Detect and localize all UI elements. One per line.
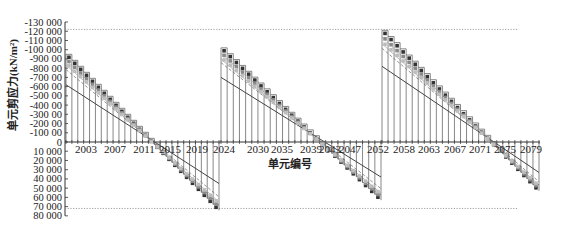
data-marker — [214, 199, 218, 203]
x-tick-label: 2030 — [247, 143, 270, 155]
data-marker — [228, 59, 232, 63]
x-tick-label: 2071 — [469, 143, 491, 155]
data-marker — [480, 131, 484, 135]
data-marker — [364, 179, 368, 183]
data-marker — [407, 61, 411, 65]
y-tick-label: 80 000 — [33, 210, 62, 221]
x-tick-label: 2011 — [133, 143, 155, 155]
data-marker — [102, 96, 106, 100]
data-marker — [108, 102, 112, 106]
data-marker — [228, 63, 232, 67]
data-marker — [407, 56, 411, 60]
data-marker — [528, 176, 532, 180]
data-marker — [173, 161, 177, 165]
data-marker — [339, 158, 343, 162]
data-marker — [278, 106, 282, 110]
data-marker — [401, 50, 405, 54]
segment-1 — [66, 54, 219, 210]
data-marker — [241, 67, 245, 71]
data-marker — [97, 91, 101, 95]
data-marker — [395, 54, 399, 58]
x-tick-label: 2058 — [393, 143, 416, 155]
data-marker — [383, 32, 387, 36]
data-marker — [91, 86, 95, 90]
data-marker — [370, 185, 374, 189]
data-marker — [241, 70, 245, 74]
x-tick-label: 2007 — [104, 143, 127, 155]
x-tick-label: 2079 — [520, 143, 543, 155]
segment-2 — [221, 48, 381, 200]
data-marker — [222, 54, 226, 58]
data-marker — [73, 69, 77, 73]
data-marker — [114, 107, 118, 111]
data-marker — [235, 61, 239, 65]
data-marker — [419, 72, 423, 76]
data-marker — [486, 137, 490, 141]
shear-stress-chart: -130 000-120 000-110 000-100 000-900 00-… — [0, 0, 561, 236]
data-marker — [462, 115, 466, 119]
data-marker — [132, 123, 136, 127]
data-marker — [516, 165, 520, 169]
data-marker — [265, 95, 269, 99]
data-marker — [296, 121, 300, 125]
x-tick-label: 2075 — [494, 143, 517, 155]
data-marker — [432, 87, 436, 91]
data-marker — [456, 109, 460, 113]
data-marker — [376, 190, 380, 194]
data-marker — [419, 76, 423, 80]
data-marker — [120, 113, 124, 117]
segment-3 — [382, 30, 539, 191]
data-marker — [425, 81, 429, 85]
data-marker — [85, 74, 89, 78]
data-marker — [67, 60, 71, 64]
x-tick-label: 2047 — [339, 143, 362, 155]
data-marker — [79, 68, 83, 72]
data-marker — [510, 159, 514, 163]
data-marker — [395, 49, 399, 53]
data-marker — [358, 174, 362, 178]
data-marker — [247, 72, 251, 76]
data-marker — [197, 183, 201, 187]
data-marker — [79, 75, 83, 79]
data-marker — [214, 202, 218, 206]
data-marker — [167, 156, 171, 160]
x-tick-label: 2063 — [418, 143, 441, 155]
data-marker — [259, 90, 263, 94]
data-marker — [73, 65, 77, 69]
data-marker — [383, 42, 387, 46]
data-marker — [308, 132, 312, 136]
data-marker — [534, 181, 538, 185]
x-tick-label: 2003 — [75, 143, 98, 155]
data-marker — [315, 137, 319, 141]
data-marker — [401, 55, 405, 59]
data-marker — [202, 188, 206, 192]
x-tick-label: 2035 — [271, 143, 294, 155]
data-marker — [228, 55, 232, 59]
data-marker — [241, 74, 245, 78]
data-marker — [179, 167, 183, 171]
data-marker — [352, 169, 356, 173]
data-marker — [290, 116, 294, 120]
data-marker — [444, 98, 448, 102]
data-marker — [191, 177, 195, 181]
data-marker — [185, 172, 189, 176]
data-marker — [413, 66, 417, 70]
data-marker — [138, 129, 142, 133]
data-marker — [85, 77, 89, 81]
data-marker — [438, 92, 442, 96]
data-marker — [222, 58, 226, 62]
x-tick-label: 2015 — [159, 143, 182, 155]
data-marker — [235, 65, 239, 69]
data-marker — [247, 76, 251, 80]
data-marker — [284, 111, 288, 115]
data-marker — [468, 120, 472, 124]
x-axis-label: 单元编号 — [268, 155, 312, 171]
data-marker — [253, 81, 257, 85]
data-marker — [413, 70, 417, 74]
data-marker — [79, 71, 83, 75]
data-marker — [522, 170, 526, 174]
data-marker — [272, 100, 276, 104]
data-marker — [214, 206, 218, 210]
data-marker — [389, 48, 393, 52]
data-marker — [85, 80, 89, 84]
